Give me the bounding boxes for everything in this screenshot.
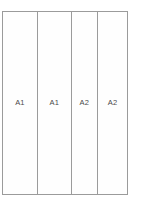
panel-assembly: A1 A1 A2 A2	[2, 11, 128, 195]
panel-column-1-label: A1	[15, 99, 25, 107]
panel-column-4[interactable]: A2	[98, 12, 127, 194]
panel-column-3[interactable]: A2	[72, 12, 98, 194]
panel-column-2[interactable]: A1	[38, 12, 72, 194]
panel-column-1[interactable]: A1	[3, 12, 38, 194]
panel-column-3-label: A2	[80, 99, 90, 107]
panel-column-2-label: A1	[50, 99, 60, 107]
panel-column-4-label: A2	[108, 99, 118, 107]
diagram-canvas: A1 A1 A2 A2	[0, 0, 144, 208]
